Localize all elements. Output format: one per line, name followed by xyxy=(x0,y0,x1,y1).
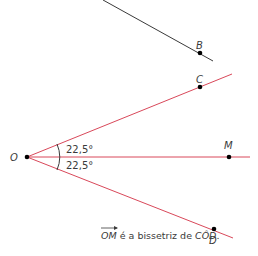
geometry-diagram: O B C M D 22,5° 22,5° OM é a bissetriz d… xyxy=(0,0,258,256)
point-c xyxy=(198,85,203,90)
caption: OM é a bissetriz de CÔD. xyxy=(101,226,219,241)
label-m: M xyxy=(224,140,233,151)
point-m xyxy=(227,155,232,160)
label-c: C xyxy=(196,74,203,85)
angle-lower: 22,5° xyxy=(66,160,93,171)
ray-od xyxy=(27,157,233,238)
point-b xyxy=(198,51,203,56)
point-o xyxy=(25,155,30,160)
angle-upper: 22,5° xyxy=(66,144,93,155)
line-b xyxy=(103,0,213,61)
label-o: O xyxy=(10,152,18,163)
label-b: B xyxy=(196,40,203,51)
caption-text: OM é a bissetriz de CÔD. xyxy=(101,230,219,241)
